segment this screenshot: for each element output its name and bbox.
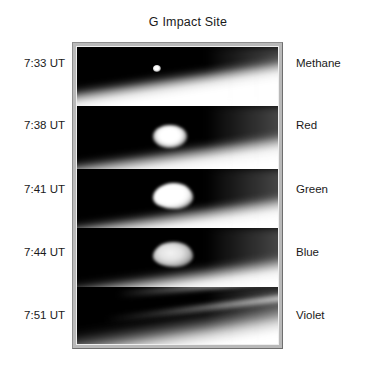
limb-glow bbox=[206, 228, 278, 287]
filter-label-row-1: Methane bbox=[296, 58, 341, 70]
limb-glow bbox=[206, 106, 278, 169]
limb-glow bbox=[206, 287, 278, 344]
image-panel-violet bbox=[77, 287, 278, 344]
figure-title: G Impact Site bbox=[0, 15, 376, 29]
image-frame bbox=[72, 42, 283, 349]
image-panel-stack bbox=[77, 47, 278, 344]
impact-plume-blob bbox=[153, 242, 193, 267]
filter-label-row-2: Red bbox=[296, 120, 317, 132]
image-panel-red bbox=[77, 106, 278, 169]
image-frame-inner bbox=[76, 46, 279, 345]
figure-root: G Impact Site 7:33 UT 7:38 UT 7:41 UT 7:… bbox=[0, 0, 376, 373]
impact-plume-spot bbox=[153, 65, 161, 72]
time-label-row-5: 7:51 UT bbox=[24, 310, 65, 322]
impact-plume-blob bbox=[153, 183, 193, 209]
time-label-row-4: 7:44 UT bbox=[24, 247, 65, 259]
planet-limb-gradient bbox=[77, 50, 278, 106]
limb-glow bbox=[206, 169, 278, 228]
filter-label-row-3: Green bbox=[296, 184, 328, 196]
time-label-row-2: 7:38 UT bbox=[24, 120, 65, 132]
time-label-row-3: 7:41 UT bbox=[24, 184, 65, 196]
limb-glow bbox=[206, 47, 278, 106]
impact-plume-blob bbox=[153, 125, 187, 148]
faint-band-streak-upper bbox=[117, 287, 278, 299]
image-panel-green bbox=[77, 169, 278, 228]
filter-label-row-4: Blue bbox=[296, 247, 319, 259]
filter-label-row-5: Violet bbox=[296, 310, 325, 322]
image-panel-blue bbox=[77, 228, 278, 287]
time-label-row-1: 7:33 UT bbox=[24, 58, 65, 70]
image-panel-methane bbox=[77, 47, 278, 106]
